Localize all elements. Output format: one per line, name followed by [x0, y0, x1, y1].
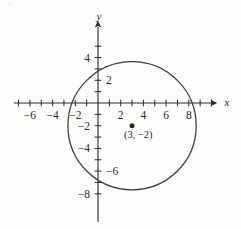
axis-lines: [14, 27, 211, 222]
figure-canvas: c −6−4−22468 42−2−4−6−8 (3, −2) x y: [0, 0, 241, 229]
x-tick-label: 6: [163, 109, 169, 121]
y-tick-label: −4: [78, 142, 90, 154]
x-tick-label: 4: [141, 109, 147, 121]
point-coordinate-label: (3, −2): [124, 129, 153, 141]
x-tick-label: 2: [118, 109, 124, 121]
y-tick-label: −8: [78, 188, 90, 200]
x-tick-label: −6: [24, 109, 36, 121]
x-tick-label: 8: [186, 109, 192, 121]
point-annotations: (3, −2): [124, 129, 153, 141]
y-axis-label: y: [96, 10, 102, 22]
plotted-points: [130, 123, 135, 128]
y-tick-label: 2: [106, 74, 112, 86]
center-point-marker: [130, 123, 135, 128]
coordinate-plane: −6−4−22468 42−2−4−6−8 (3, −2) x y: [0, 0, 241, 229]
y-tick-label: −6: [106, 165, 118, 177]
x-axis-label: x: [224, 96, 230, 108]
x-tick-label: −4: [46, 109, 58, 121]
y-tick-label: −2: [78, 120, 90, 132]
y-tick-label: 4: [84, 52, 90, 64]
x-tick-labels: −6−4−22468: [24, 109, 192, 121]
